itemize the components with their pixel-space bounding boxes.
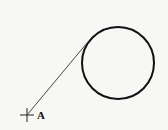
circle	[82, 27, 154, 99]
geometry-diagram: A	[0, 0, 168, 130]
point-a-label: A	[37, 109, 45, 121]
tangent-line	[27, 43, 87, 115]
point-a-marker	[20, 108, 34, 122]
